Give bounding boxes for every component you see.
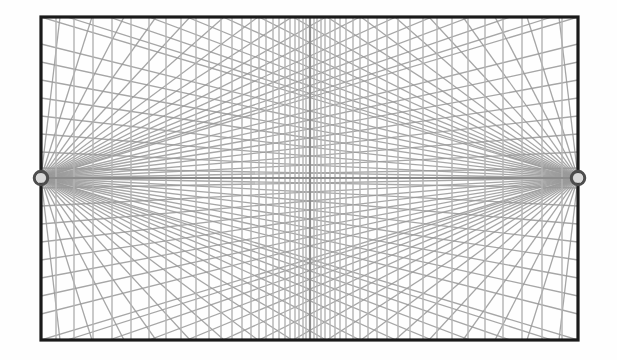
right-vanishing-point[interactable] — [571, 171, 585, 185]
left-vanishing-point-dot — [36, 173, 46, 183]
perspective-grid-svg — [0, 0, 617, 360]
perspective-grid-canvas — [0, 0, 617, 360]
clipped-grid-group — [41, 17, 578, 340]
right-vanishing-point-dot — [573, 173, 583, 183]
left-vanishing-point[interactable] — [34, 171, 48, 185]
